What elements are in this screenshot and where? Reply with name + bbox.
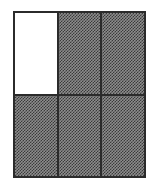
grid-cell-r2c3 [101, 95, 144, 177]
grid-cell-r1c3 [101, 13, 144, 95]
grid-cell-r2c2 [58, 95, 101, 177]
figure-canvas [0, 0, 163, 186]
area-model-rectangle [13, 11, 146, 178]
grid-cell-r1c2 [58, 13, 101, 95]
grid-cells-container [15, 13, 144, 176]
grid-cell-r1c1 [15, 13, 58, 95]
grid-cell-r2c1 [15, 95, 58, 177]
